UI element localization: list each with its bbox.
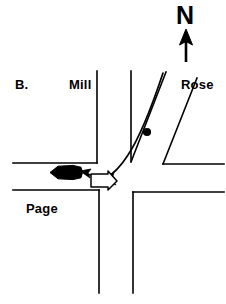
filled-car-silhouette <box>50 165 83 179</box>
intersection-diagram-svg <box>0 0 226 304</box>
street-label-page: Page <box>26 202 58 215</box>
curved-turn-path <box>104 73 163 185</box>
reference-dot <box>143 128 151 136</box>
north-label: N <box>176 3 194 28</box>
street-label-mill: Mill <box>69 78 91 91</box>
diagram-canvas: B. Mill Rose Page N <box>0 0 226 304</box>
panel-label: B. <box>15 78 28 91</box>
curved-turn-path-line <box>106 73 163 178</box>
north-arrow <box>180 29 193 62</box>
road-edge-rose-northwest <box>131 72 166 162</box>
street-label-rose: Rose <box>181 78 214 91</box>
road-network <box>13 71 224 293</box>
